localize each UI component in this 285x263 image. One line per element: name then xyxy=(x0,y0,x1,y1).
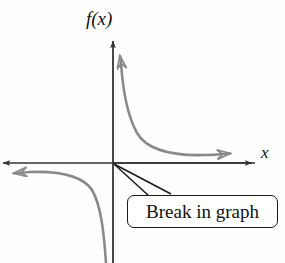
curve-branch-left xyxy=(14,172,106,263)
x-axis-label: x xyxy=(261,143,269,163)
break-in-graph-callout: Break in graph xyxy=(127,195,278,228)
callout-label: Break in graph xyxy=(146,202,259,222)
curve-branch-right-up-arrow xyxy=(120,56,121,63)
graph-figure: f(x) x Break in graph xyxy=(0,0,285,263)
curve-branch-right xyxy=(121,63,230,155)
y-axis-label: f(x) xyxy=(86,8,112,30)
